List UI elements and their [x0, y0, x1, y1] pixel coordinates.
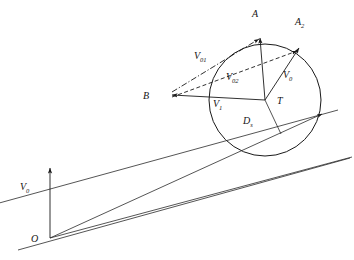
ta-vector	[260, 38, 265, 100]
label-point-b: B	[143, 90, 149, 101]
figure-canvas: A A2 B T O V0 V01 V02 V0 V1 Ds	[0, 0, 354, 260]
label-v1: V1	[213, 98, 222, 111]
label-point-a: A	[251, 8, 259, 19]
label-v0-origin: V0	[20, 181, 30, 194]
label-v02: V02	[226, 71, 239, 84]
label-v0-target: V0	[283, 69, 293, 82]
label-d: Ds	[242, 115, 253, 128]
label-point-a2: A2	[294, 16, 305, 29]
v01-vector	[172, 39, 259, 92]
label-v01: V01	[194, 50, 207, 63]
vector-diagram: A A2 B T O V0 V01 V02 V0 V1 Ds	[0, 0, 354, 260]
band-line-lower	[18, 158, 350, 250]
v02-vector	[172, 51, 297, 97]
label-target-t: T	[277, 95, 284, 106]
band-line-upper	[0, 110, 338, 205]
v0-target-vector	[265, 48, 299, 100]
label-origin-o: O	[31, 233, 38, 244]
